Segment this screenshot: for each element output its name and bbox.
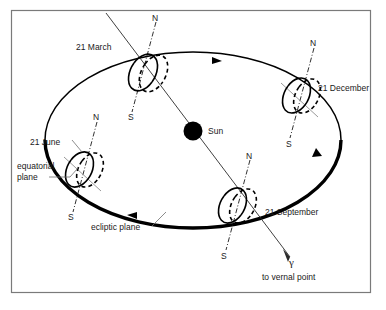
north-pole-label-march: N [152,13,158,23]
orbit-direction-arrow-top [212,57,222,64]
equatorial-disc-solid-september [219,196,241,223]
north-pole-label-september: N [246,151,252,161]
south-pole-label-september: S [221,251,227,261]
earth-position-september: N S 21 September [219,151,319,261]
earth-axis-march [132,22,156,112]
equatorial-disc-dashed-june [77,161,98,187]
south-pole-label-march: S [128,112,134,122]
equatorial-disc-solid-june [66,160,88,187]
orbit-diagram-figure: Sun N S 21 March N S 21 D [0,0,386,310]
date-label-march: 21 March [76,42,112,52]
date-label-june: 21 June [30,137,61,147]
date-label-september: 21 September [265,207,319,217]
equatorial-disc-dashed-december [294,87,315,113]
date-label-december: 21 December [318,83,369,93]
earth-position-december: N S 21 December [281,38,369,149]
north-pole-label-june: N [93,112,99,122]
equatorial-disc-solid-december [283,86,305,113]
equatorial-disc-solid-december-b [288,78,310,105]
leader-line-ecliptic-plane [152,212,166,226]
equatorial-disc-solid-march-b [134,54,158,82]
north-pole-label-december: N [310,38,316,48]
leader-line-june [72,140,82,152]
diagram-canvas: Sun N S 21 March N S 21 D [0,0,386,310]
vernal-point-symbol: γ [288,256,294,268]
equatorial-disc-solid-june-b [71,152,93,179]
equatorial-plane-label-line1: equatorial [17,161,54,171]
equatorial-disc-solid-september-b [224,188,246,215]
equatorial-plane-label-line2: plane [17,172,38,182]
orbit-direction-arrow-right [312,148,322,157]
ecliptic-plane-label: ecliptic plane [91,222,140,232]
equatorial-disc-dashed-march [139,64,162,92]
south-pole-label-june: S [68,212,74,222]
south-pole-label-december: S [286,139,292,149]
sun-body [184,122,203,141]
sun-label: Sun [208,126,223,136]
earth-position-march: N S 21 March [76,13,168,122]
vernal-point-label: to vernal point [262,272,316,282]
